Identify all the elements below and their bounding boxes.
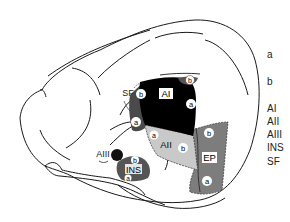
legend-item-aiii: AIII (267, 130, 282, 140)
svg-text:a: a (126, 175, 130, 182)
brain-diagram: b b a a a b b a b a AI AII EP INS AIII S… (0, 0, 290, 222)
ins-a: a (125, 175, 132, 182)
legend-item-ins: INS (267, 143, 284, 153)
svg-text:b: b (181, 144, 185, 153)
aii-a: a (150, 131, 159, 140)
ai-b-left: b (136, 89, 146, 99)
svg-text:a: a (152, 132, 156, 139)
legend-item-ai: AI (267, 104, 276, 114)
legend-item-sf: SF (267, 157, 280, 167)
ins-b: b (131, 156, 139, 164)
svg-text:b: b (188, 77, 192, 84)
legend-item-b: b (267, 77, 273, 87)
svg-text:b: b (207, 129, 211, 138)
legend-item-aii: AII (267, 117, 279, 127)
ai-b-top: b (186, 76, 195, 85)
svg-text:b: b (133, 157, 137, 164)
aii-b: b (178, 143, 188, 153)
label-aii: AII (160, 139, 172, 150)
label-ep: EP (203, 152, 216, 163)
label-ai: AI (162, 88, 171, 99)
legend: a b AI AII AIII INS SF (267, 0, 290, 222)
label-sf: SF (122, 88, 134, 98)
sf-a: a (131, 117, 141, 127)
svg-text:b: b (139, 90, 143, 99)
region-aiii (111, 149, 123, 161)
label-aiii: AIII (96, 149, 110, 159)
ep-b: b (204, 128, 214, 138)
ai-a-right: a (186, 99, 196, 109)
ep-a: a (202, 176, 212, 186)
legend-item-a: a (267, 50, 273, 60)
label-ins: INS (126, 165, 141, 175)
